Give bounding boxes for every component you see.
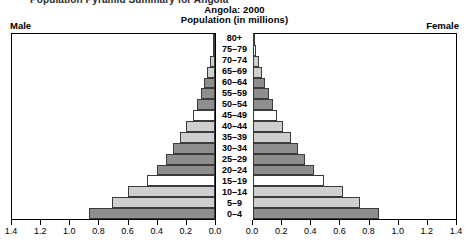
- axis-tick-label: 1.0: [63, 226, 76, 236]
- axis-tick: [186, 220, 187, 225]
- axis-tick-label: 1.0: [391, 226, 404, 236]
- bar-row: [12, 143, 215, 154]
- bar-row: [12, 165, 215, 176]
- axis-tick: [215, 220, 216, 225]
- age-group-label: 25–29: [216, 154, 253, 165]
- bar-row: [12, 175, 215, 186]
- bar-row: [12, 67, 215, 78]
- bar-male-70-74: [210, 56, 215, 67]
- age-group-label: 75–79: [216, 44, 253, 55]
- bar-male-40-44: [186, 121, 215, 132]
- bar-male-55-59: [201, 88, 216, 99]
- bar-row: [253, 197, 456, 208]
- bar-female-80+: [253, 34, 255, 45]
- axis-tick-label: 0.2: [180, 226, 193, 236]
- age-group-label: 30–34: [216, 143, 253, 154]
- bar-male-60-64: [204, 78, 215, 89]
- bar-row: [253, 78, 456, 89]
- bar-row: [253, 175, 456, 186]
- axis-tick-label: 0.0: [246, 226, 259, 236]
- age-group-label: 15–19: [216, 176, 253, 187]
- axis-tick: [427, 220, 428, 225]
- axis-tick: [398, 220, 399, 225]
- axis-tick-label: 0.0: [209, 226, 222, 236]
- chart-subtitle: Population (in millions): [0, 14, 469, 25]
- axis-tick: [40, 220, 41, 225]
- age-group-label: 45–49: [216, 110, 253, 121]
- bar-male-80+: [213, 34, 215, 45]
- axis-tick-label: 1.4: [450, 226, 463, 236]
- female-axis-label: Female: [426, 20, 459, 31]
- bar-female-0-4: [253, 208, 379, 219]
- axis-tick-label: 0.4: [304, 226, 317, 236]
- bar-female-65-69: [253, 67, 262, 78]
- axis-tick: [281, 220, 282, 225]
- bar-male-65-69: [207, 67, 215, 78]
- female-bar-rows: [253, 34, 456, 219]
- axis-tick-label: 0.8: [362, 226, 375, 236]
- axis-tick: [339, 220, 340, 225]
- bar-female-55-59: [253, 88, 269, 99]
- bar-row: [12, 121, 215, 132]
- bar-row: [12, 132, 215, 143]
- bar-row: [12, 208, 215, 219]
- bar-female-10-14: [253, 186, 343, 197]
- age-group-label: 55–59: [216, 88, 253, 99]
- bar-row: [253, 67, 456, 78]
- axis-tick: [456, 220, 457, 225]
- bar-female-15-19: [253, 175, 324, 186]
- bar-row: [253, 88, 456, 99]
- bar-female-20-24: [253, 165, 314, 176]
- age-group-label: 70–74: [216, 55, 253, 66]
- bar-male-25-29: [166, 154, 215, 165]
- bar-male-75-79: [213, 45, 215, 56]
- bar-male-15-19: [147, 175, 215, 186]
- bar-row: [12, 197, 215, 208]
- bar-female-5-9: [253, 197, 360, 208]
- bar-male-0-4: [89, 208, 215, 219]
- bar-row: [12, 110, 215, 121]
- bar-female-60-64: [253, 78, 265, 89]
- bar-male-30-34: [173, 143, 215, 154]
- bar-row: [12, 78, 215, 89]
- bar-female-25-29: [253, 154, 305, 165]
- axis-tick: [128, 220, 129, 225]
- axis-tick: [369, 220, 370, 225]
- bar-male-50-54: [197, 99, 215, 110]
- bar-row: [253, 34, 456, 45]
- axis-tick: [98, 220, 99, 225]
- bar-row: [12, 56, 215, 67]
- bar-row: [253, 143, 456, 154]
- axis-tick-label: 1.2: [421, 226, 434, 236]
- axis-tick-label: 0.6: [121, 226, 134, 236]
- age-group-label: 35–39: [216, 132, 253, 143]
- axis-tick: [11, 220, 12, 225]
- age-group-label: 80+: [216, 33, 253, 44]
- age-group-label: 60–64: [216, 77, 253, 88]
- bar-row: [12, 34, 215, 45]
- bar-row: [12, 154, 215, 165]
- axis-tick: [69, 220, 70, 225]
- age-group-label: 20–24: [216, 165, 253, 176]
- axis-tick: [252, 220, 253, 225]
- female-plot-panel: [252, 33, 457, 220]
- bar-female-35-39: [253, 132, 291, 143]
- bar-row: [253, 165, 456, 176]
- bar-female-50-54: [253, 99, 273, 110]
- axis-tick-label: 1.2: [34, 226, 47, 236]
- bar-male-35-39: [180, 132, 215, 143]
- age-group-label: 0–4: [216, 209, 253, 220]
- bar-row: [253, 121, 456, 132]
- age-group-label: 65–69: [216, 66, 253, 77]
- bar-row: [12, 186, 215, 197]
- bar-row: [12, 45, 215, 56]
- bar-row: [12, 88, 215, 99]
- female-x-axis: 0.00.20.40.60.81.01.21.4: [252, 220, 457, 250]
- age-group-labels: 80+75–7970–7465–6960–6455–5950–5445–4940…: [216, 33, 253, 220]
- bar-male-10-14: [128, 186, 215, 197]
- age-group-label: 10–14: [216, 187, 253, 198]
- male-x-axis: 1.41.21.00.80.60.40.20.0: [11, 220, 216, 250]
- bar-male-45-49: [193, 110, 215, 121]
- axis-tick-label: 1.4: [5, 226, 18, 236]
- axis-tick-label: 0.8: [92, 226, 105, 236]
